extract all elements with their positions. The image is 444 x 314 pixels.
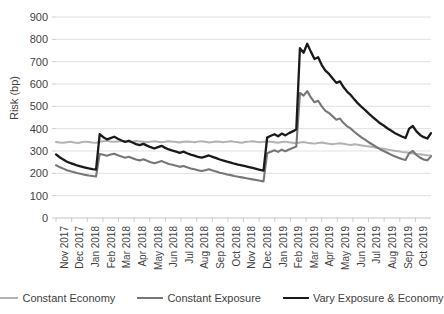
x-tick-label: Dec 2018 — [262, 226, 273, 269]
x-tick-label: May 2018 — [153, 226, 164, 270]
legend-item-vary-exposure-economy: Vary Exposure & Economy — [283, 292, 444, 304]
series-line-vary-exposure-economy — [56, 44, 431, 171]
y-tick-label: 100 — [30, 190, 48, 202]
y-tick-label: 0 — [42, 212, 48, 224]
x-tick-label: Mar 2019 — [309, 226, 320, 269]
y-tick-label: 700 — [30, 56, 48, 68]
y-tick-label: 600 — [30, 78, 48, 90]
x-tick-label: Jun 2019 — [356, 226, 367, 268]
x-tick-label: Mar 2018 — [121, 226, 132, 269]
x-tick-label: Aug 2019 — [387, 226, 398, 269]
x-tick-label: Feb 2019 — [293, 226, 304, 269]
x-tick-label: Aug 2018 — [199, 226, 210, 269]
x-tick-label: Dec 2017 — [74, 226, 85, 269]
y-tick-label: 500 — [30, 100, 48, 112]
x-tick-label: Apr 2018 — [137, 226, 148, 267]
chart-legend: Constant Economy Constant Exposure Vary … — [0, 292, 436, 304]
legend-item-constant-exposure: Constant Exposure — [137, 292, 261, 304]
y-axis-tick-labels: 0100200300400500600700800900 — [30, 11, 48, 224]
x-tick-label: Jan 2019 — [278, 226, 289, 268]
x-tick-label: Oct 2018 — [231, 226, 242, 267]
legend-item-constant-economy: Constant Economy — [0, 292, 115, 304]
x-tick-label: Sep 2019 — [403, 226, 414, 269]
x-axis-tick-labels: Nov 2017Dec 2017Jan 2018Feb 2018Mar 2018… — [56, 218, 429, 270]
legend-swatch-constant-economy — [0, 297, 18, 299]
legend-label-constant-exposure: Constant Exposure — [167, 292, 261, 304]
y-tick-label: 900 — [30, 11, 48, 23]
y-tick-label: 800 — [30, 33, 48, 45]
x-tick-label: Feb 2018 — [106, 226, 117, 269]
y-tick-label: 300 — [30, 145, 48, 157]
legend-swatch-vary-exposure-economy — [283, 297, 309, 299]
x-tick-label: Apr 2019 — [324, 226, 335, 267]
legend-label-vary-exposure-economy: Vary Exposure & Economy — [313, 292, 444, 304]
x-tick-label: Jul 2019 — [371, 226, 382, 264]
y-tick-label: 400 — [30, 123, 48, 135]
x-tick-label: Oct 2019 — [418, 226, 429, 267]
x-tick-label: Sep 2018 — [215, 226, 226, 269]
x-tick-label: May 2019 — [340, 226, 351, 270]
x-tick-label: Jan 2018 — [90, 226, 101, 268]
x-tick-label: Jun 2018 — [168, 226, 179, 268]
x-tick-label: Nov 2018 — [246, 226, 257, 269]
y-tick-label: 200 — [30, 167, 48, 179]
data-series — [56, 44, 431, 182]
x-tick-label: Nov 2017 — [59, 226, 70, 269]
legend-label-constant-economy: Constant Economy — [22, 292, 115, 304]
x-tick-label: Jul 2018 — [184, 226, 195, 264]
legend-swatch-constant-exposure — [137, 297, 163, 299]
plot-area: 0100200300400500600700800900 Nov 2017Dec… — [0, 0, 436, 292]
